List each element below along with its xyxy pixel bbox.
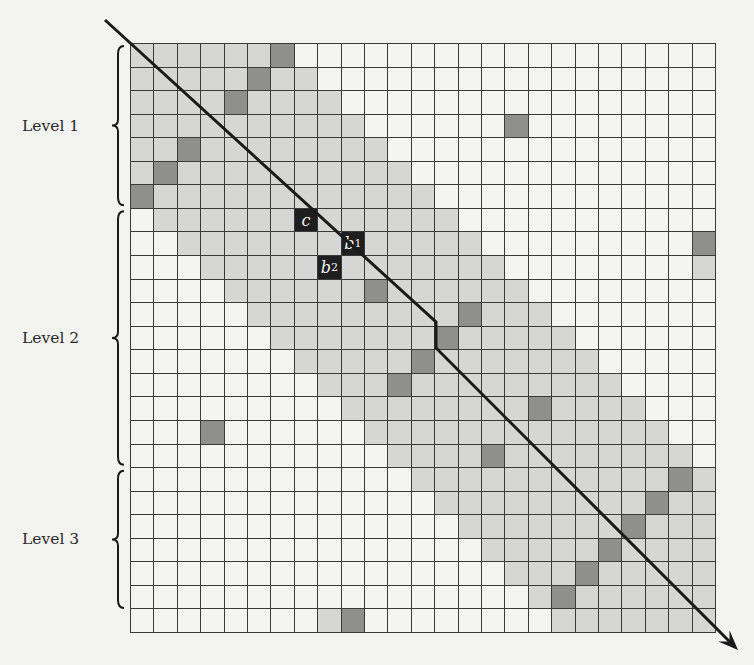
band-cell-light: [200, 137, 223, 161]
band-cell-light: [458, 467, 481, 491]
band-cell-light: [645, 538, 668, 562]
empty-cell: [575, 208, 598, 232]
empty-cell: [387, 514, 410, 538]
band-cell-light: [411, 302, 434, 326]
empty-cell: [458, 67, 481, 91]
band-cell-light: [270, 326, 293, 350]
empty-cell: [692, 90, 715, 114]
empty-cell: [528, 608, 551, 632]
band-cell-light: [528, 420, 551, 444]
block-subscript: 1: [354, 237, 361, 250]
nonzero-cell-dark: [668, 467, 691, 491]
band-cell-light: [528, 467, 551, 491]
empty-cell: [270, 444, 293, 468]
band-cell-light: [621, 491, 644, 515]
band-cell-light: [294, 302, 317, 326]
brace-icon: [112, 471, 124, 608]
band-cell-light: [551, 491, 574, 515]
band-cell-light: [504, 326, 527, 350]
empty-cell: [247, 444, 270, 468]
band-cell-light: [317, 349, 340, 373]
band-cell-light: [692, 255, 715, 279]
band-cell-light: [481, 396, 504, 420]
empty-cell: [341, 90, 364, 114]
band-cell-light: [621, 396, 644, 420]
band-cell-light: [621, 420, 644, 444]
empty-cell: [528, 161, 551, 185]
empty-cell: [575, 137, 598, 161]
band-cell-light: [434, 396, 457, 420]
band-cell-light: [200, 161, 223, 185]
band-cell-light: [645, 467, 668, 491]
empty-cell: [411, 43, 434, 67]
band-cell-light: [528, 326, 551, 350]
band-cell-light: [364, 349, 387, 373]
empty-cell: [294, 444, 317, 468]
empty-cell: [224, 349, 247, 373]
empty-cell: [481, 585, 504, 609]
band-cell-light: [200, 114, 223, 138]
empty-cell: [294, 491, 317, 515]
band-cell-light: [224, 184, 247, 208]
nonzero-cell-dark: [458, 302, 481, 326]
band-cell-light: [224, 67, 247, 91]
empty-cell: [551, 208, 574, 232]
empty-cell: [130, 208, 153, 232]
band-cell-light: [598, 467, 621, 491]
empty-cell: [458, 137, 481, 161]
empty-cell: [551, 137, 574, 161]
band-cell-light: [551, 373, 574, 397]
band-cell-light: [294, 255, 317, 279]
band-cell-light: [364, 373, 387, 397]
band-cell-light: [645, 514, 668, 538]
empty-cell: [621, 161, 644, 185]
empty-cell: [668, 184, 691, 208]
empty-cell: [504, 608, 527, 632]
band-cell-light: [247, 231, 270, 255]
band-cell-light: [458, 514, 481, 538]
band-cell-light: [528, 302, 551, 326]
band-cell-light: [317, 302, 340, 326]
empty-cell: [645, 302, 668, 326]
empty-cell: [247, 373, 270, 397]
empty-cell: [504, 184, 527, 208]
empty-cell: [200, 514, 223, 538]
band-cell-light: [692, 514, 715, 538]
empty-cell: [177, 396, 200, 420]
band-cell-light: [692, 608, 715, 632]
empty-cell: [270, 491, 293, 515]
band-cell-light: [247, 279, 270, 303]
empty-cell: [504, 161, 527, 185]
empty-cell: [621, 67, 644, 91]
band-cell-light: [153, 67, 176, 91]
empty-cell: [317, 585, 340, 609]
empty-cell: [645, 231, 668, 255]
band-cell-light: [130, 137, 153, 161]
band-cell-light: [294, 161, 317, 185]
band-cell-light: [551, 326, 574, 350]
empty-cell: [551, 114, 574, 138]
empty-cell: [364, 467, 387, 491]
band-cell-light: [153, 137, 176, 161]
band-cell-light: [575, 514, 598, 538]
band-cell-light: [270, 161, 293, 185]
band-cell-light: [504, 279, 527, 303]
empty-cell: [551, 231, 574, 255]
empty-cell: [481, 67, 504, 91]
empty-cell: [270, 349, 293, 373]
empty-cell: [341, 585, 364, 609]
empty-cell: [130, 373, 153, 397]
empty-cell: [247, 608, 270, 632]
band-cell-light: [575, 420, 598, 444]
band-cell-light: [458, 279, 481, 303]
band-cell-light: [434, 467, 457, 491]
band-cell-light: [528, 349, 551, 373]
empty-cell: [692, 43, 715, 67]
empty-cell: [270, 514, 293, 538]
empty-cell: [153, 420, 176, 444]
empty-cell: [200, 585, 223, 609]
band-cell-light: [317, 373, 340, 397]
band-cell-light: [621, 444, 644, 468]
empty-cell: [598, 114, 621, 138]
empty-cell: [645, 184, 668, 208]
